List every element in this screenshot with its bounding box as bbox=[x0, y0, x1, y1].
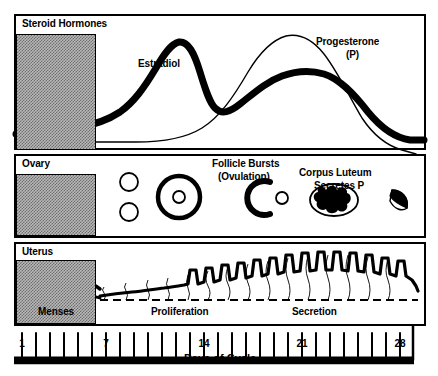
tick-label-day-1: 1 bbox=[19, 338, 25, 349]
ovary-panel: Ovary bbox=[14, 154, 426, 238]
menses-phase-label: Menses bbox=[38, 306, 74, 317]
panel-title-uterus: Uterus bbox=[21, 246, 54, 257]
day-axis: 1 7 14 21 28 Days of Cycle bbox=[14, 326, 426, 376]
uterus-panel: Uterus bbox=[14, 242, 426, 326]
steroid-hormones-panel: Steroid Hormones Estradiol Progesterone … bbox=[14, 14, 426, 150]
progesterone-abbrev-label: (P) bbox=[346, 49, 359, 60]
released-oocyte bbox=[276, 192, 288, 204]
tick-label-day-14: 14 bbox=[198, 338, 209, 349]
ruptured-follicle bbox=[247, 181, 270, 215]
corpus-luteum-label: Corpus Luteum bbox=[299, 167, 372, 178]
panel-title-steroid-hormones: Steroid Hormones bbox=[21, 18, 108, 29]
developing-follicle-small-a bbox=[120, 173, 138, 191]
axis-caption: Days of Cycle bbox=[14, 352, 426, 364]
tick-label-day-21: 21 bbox=[296, 338, 307, 349]
ovulation-label: (Ovulation) bbox=[218, 171, 270, 182]
follicle-bursts-label: Follicle Bursts bbox=[212, 158, 279, 169]
tick-label-day-7: 7 bbox=[103, 338, 109, 349]
menses-shading-ovary bbox=[16, 174, 96, 236]
secretes-p-label: Secretes P bbox=[314, 180, 364, 191]
axis-ticks bbox=[14, 326, 426, 376]
menses-shading-hormones bbox=[16, 34, 96, 150]
developing-follicle-small-b bbox=[120, 203, 138, 221]
secretion-phase-label: Secretion bbox=[292, 306, 337, 317]
menstrual-cycle-diagram: Steroid Hormones Estradiol Progesterone … bbox=[0, 0, 438, 376]
graafian-follicle-oocyte bbox=[173, 191, 185, 203]
panel-title-ovary: Ovary bbox=[21, 158, 51, 169]
estradiol-label: Estradiol bbox=[138, 58, 180, 69]
progesterone-label: Progesterone bbox=[316, 36, 379, 47]
proliferation-phase-label: Proliferation bbox=[151, 306, 209, 317]
tick-label-day-28: 28 bbox=[394, 338, 405, 349]
